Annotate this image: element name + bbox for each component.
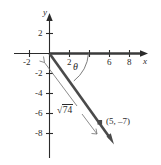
y-axis-label: y: [43, 8, 47, 17]
point-coordinate-label: (5, –7): [106, 117, 130, 126]
trigonometry-figure: -2 2 6 8 2 -2 -4 -6 -8 x y θ √74 (5, –7): [0, 0, 161, 165]
y-tick-label-neg6: -6: [35, 109, 43, 118]
y-tick-label-neg8: -8: [35, 129, 43, 138]
terminal-side-ray: [50, 54, 115, 145]
length-sqrt74-label: √74: [57, 106, 73, 116]
x-tick-label-6: 6: [107, 58, 112, 67]
radicand: 74: [62, 104, 73, 115]
x-tick-label-2: 2: [67, 58, 72, 67]
point-marker: [98, 120, 103, 125]
coordinate-plane-svg: [0, 0, 161, 165]
y-tick-label-2: 2: [38, 29, 43, 38]
y-tick-label-neg4: -4: [35, 89, 43, 98]
y-tick-label-neg2: -2: [35, 69, 43, 78]
x-axis-label: x: [143, 57, 147, 66]
y-axis: [46, 13, 53, 158]
x-tick-label-neg2: -2: [23, 58, 31, 67]
x-tick-label-8: 8: [127, 58, 132, 67]
angle-theta-label: θ: [73, 62, 78, 72]
